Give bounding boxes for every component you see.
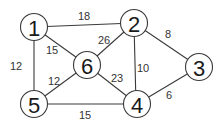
node-3-label: 3: [193, 56, 205, 81]
weight-5-4: 15: [79, 109, 91, 121]
node-6: 6: [74, 52, 101, 79]
nodes: 1 2 3 4 5 6: [21, 10, 213, 118]
weight-2-3: 8: [165, 28, 171, 40]
node-2: 2: [121, 10, 148, 37]
weight-1-2: 18: [78, 10, 90, 22]
weighted-graph-diagram: 18 12 15 26 10 8 12 23 15 6 1 2 3 4 5: [0, 0, 224, 130]
node-1: 1: [21, 14, 48, 41]
node-2-label: 2: [128, 12, 140, 37]
weight-6-5: 12: [48, 75, 60, 87]
weight-1-5: 12: [10, 60, 22, 72]
weight-2-4: 10: [137, 62, 149, 74]
weight-4-3: 6: [166, 89, 172, 101]
node-4-label: 4: [131, 93, 143, 118]
weight-2-6: 26: [98, 34, 110, 46]
node-3: 3: [186, 54, 213, 81]
node-5-label: 5: [28, 93, 40, 118]
node-1-label: 1: [28, 16, 40, 41]
weight-6-4: 23: [111, 72, 123, 84]
node-4: 4: [124, 91, 151, 118]
node-6-label: 6: [81, 54, 93, 79]
weight-1-6: 15: [46, 44, 58, 56]
node-5: 5: [21, 91, 48, 118]
edges: [34, 23, 199, 104]
edge-1-2: [34, 23, 134, 27]
